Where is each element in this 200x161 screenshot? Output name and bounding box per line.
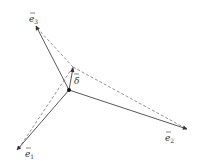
svg-text:e1: e1 <box>25 149 34 160</box>
label-e2: e2 <box>165 132 174 144</box>
dashed-edge-e1 <box>19 67 73 148</box>
dashed-edge-e2 <box>73 67 185 128</box>
label-e3: e3 <box>29 13 38 25</box>
vector-e1 <box>17 90 69 150</box>
vector-e3 <box>36 26 69 90</box>
vector-diagram: e3 δ e1 e2 <box>0 0 200 161</box>
label-delta: δ <box>74 74 79 86</box>
dashed-edge-e3 <box>38 29 73 67</box>
label-e1: e1 <box>25 148 34 160</box>
svg-text:e2: e2 <box>165 133 174 144</box>
vector-e2 <box>69 90 187 129</box>
origin-point <box>67 88 71 92</box>
vector-delta <box>69 68 73 90</box>
svg-text:e3: e3 <box>29 14 38 25</box>
svg-text:δ: δ <box>74 76 79 86</box>
